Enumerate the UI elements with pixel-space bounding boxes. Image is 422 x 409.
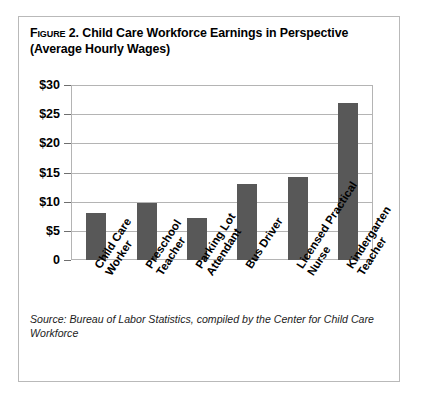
- y-axis-label: $5: [46, 224, 60, 238]
- gridline: [71, 143, 373, 144]
- y-axis-tick: [64, 114, 71, 115]
- y-axis-tick: [64, 202, 71, 203]
- y-axis-tick: [64, 260, 71, 261]
- y-axis-label: 0: [53, 253, 60, 267]
- bar-chart: 0$5$10$15$20$25$30 Child CareWorkerPresc…: [71, 85, 373, 260]
- gridline: [71, 202, 373, 203]
- figure-card: Figure 2. Child Care Workforce Earnings …: [18, 16, 400, 382]
- figure-number: Figure 2.: [30, 26, 79, 40]
- y-axis-label: $20: [39, 136, 60, 150]
- y-axis-label: $30: [39, 78, 60, 92]
- y-axis-label: $25: [39, 107, 60, 121]
- gridline: [71, 114, 373, 115]
- page-title: Figure 2. Child Care Workforce Earnings …: [30, 25, 380, 57]
- y-axis-tick: [64, 143, 71, 144]
- y-axis-label: $10: [39, 195, 60, 209]
- y-axis-tick: [64, 85, 71, 86]
- y-axis-tick: [64, 173, 71, 174]
- gridline: [71, 173, 373, 174]
- y-axis-label: $15: [39, 166, 60, 180]
- y-axis-tick: [64, 231, 71, 232]
- gridline: [71, 85, 373, 86]
- source-note: Source: Bureau of Labor Statistics, comp…: [30, 313, 378, 340]
